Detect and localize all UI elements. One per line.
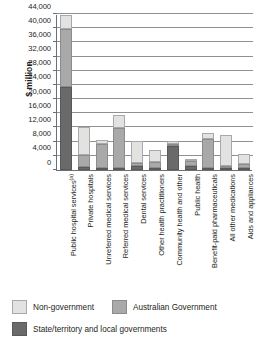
bar-8 (202, 133, 214, 170)
legend-item-state-territory-local-governments: State/territory and local governments (12, 322, 167, 336)
x-axis-label: Other health practitioners (157, 174, 166, 284)
bar-segment-aus (113, 128, 125, 168)
y-axis-tick-label: 40,000 (28, 15, 51, 24)
legend-item-australian-government: Australian Government (112, 300, 217, 314)
legend-label-state-territory-local-governments: State/territory and local governments (33, 325, 167, 334)
legend-row-2: State/territory and local governments (12, 322, 262, 336)
plot-area: 04,0008,00012,00016,00020,00024,00028,00… (56, 15, 252, 171)
y-axis-tick-label: 16,000 (28, 100, 51, 109)
bar-segment-aus (96, 144, 108, 168)
y-axis-tick-label: 8,000 (32, 129, 51, 138)
x-axis-label: All other medications (228, 174, 237, 284)
bar-segment-state (220, 168, 232, 170)
y-axis-tick-label: 28,000 (28, 58, 51, 67)
bar-segment-state (167, 146, 179, 170)
bar-7 (185, 159, 197, 170)
bar-series-layer (57, 14, 253, 170)
bar-segment-nongov (149, 150, 161, 163)
bar-segment-aus (78, 155, 90, 167)
legend-label-non-government: Non-government (33, 303, 94, 312)
chart-container: $ million 04,0008,00012,00016,00020,0002… (0, 0, 264, 357)
bar-4 (131, 141, 143, 170)
bar-3 (113, 115, 125, 170)
x-axis-label: Unreferred medical services (104, 174, 113, 284)
bar-segment-nongov (131, 141, 143, 163)
x-axis-label: Benefit-paid pharmaceuticals (210, 174, 219, 284)
chart-legend: Non-government Australian Government Sta… (12, 300, 262, 344)
x-axis-label: Aids and appliances (246, 174, 255, 284)
legend-row-1: Non-government Australian Government (12, 300, 262, 314)
bar-segment-state (78, 167, 90, 170)
x-axis-label: Public health (193, 174, 202, 284)
bar-segment-state (238, 168, 250, 170)
x-axis-label: Public hospital services(a) (68, 174, 78, 284)
y-axis-tick-label: 44,000 (28, 1, 51, 10)
bar-segment-nongov (220, 135, 232, 166)
y-axis-tick-label: 32,000 (28, 44, 51, 53)
bar-segment-nongov (60, 15, 72, 28)
bar-segment-state (185, 166, 197, 170)
bar-segment-state (113, 168, 125, 170)
bar-segment-nongov (238, 154, 250, 164)
x-axis-label: Dental services (139, 174, 148, 284)
bar-1 (78, 127, 90, 170)
bar-segment-aus (202, 139, 214, 168)
x-axis-label: Community health and other (175, 174, 184, 284)
y-axis-tick-label: 24,000 (28, 72, 51, 81)
bar-segment-aus (60, 29, 72, 87)
bar-segment-state (202, 168, 214, 170)
bar-9 (220, 135, 232, 170)
bar-segment-state (96, 168, 108, 170)
bar-segment-state (60, 87, 72, 170)
bar-segment-state (131, 166, 143, 170)
bar-5 (149, 150, 161, 170)
bar-segment-state (149, 168, 161, 170)
bar-0 (60, 15, 72, 170)
x-axis-labels: Public hospital services(a)Private hospi… (56, 174, 252, 286)
bar-segment-nongov (78, 127, 90, 155)
y-axis-tick-label: 20,000 (28, 86, 51, 95)
y-axis-tick-label: 4,000 (32, 143, 51, 152)
y-axis-tick-label: 36,000 (28, 29, 51, 38)
bar-segment-nongov (113, 115, 125, 128)
y-axis-tick-label: 12,000 (28, 114, 51, 123)
legend-swatch-non-government (12, 300, 27, 314)
bar-10 (238, 154, 250, 170)
legend-label-australian-government: Australian Government (133, 303, 217, 312)
legend-swatch-australian-government (112, 300, 127, 314)
x-axis-label: Private hospitals (86, 174, 95, 284)
y-axis-tick-label: 0 (47, 157, 51, 166)
bar-6 (167, 141, 179, 170)
legend-swatch-state-territory-local-governments (12, 322, 27, 336)
x-axis-label: Referred medical services (121, 174, 130, 284)
bar-2 (96, 140, 108, 170)
legend-item-non-government: Non-government (12, 300, 94, 314)
